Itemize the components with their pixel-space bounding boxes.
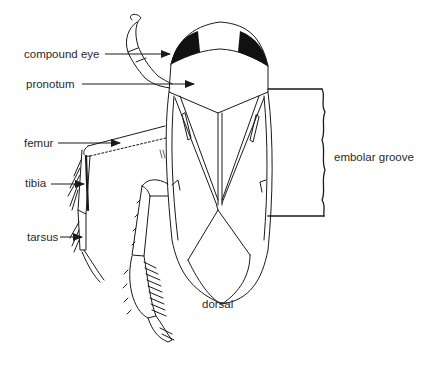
label-tibia: tibia	[25, 178, 46, 190]
label-compound-eye: compound eye	[24, 49, 99, 61]
antenna	[126, 22, 170, 88]
fore-leg	[68, 126, 166, 282]
middle-leg	[123, 180, 174, 342]
embolar-groove-bracket	[268, 89, 325, 216]
head	[171, 22, 268, 66]
insect-dorsal-diagram: compound eye pronotum femur tibia tarsus…	[0, 0, 437, 370]
compound-eye-left	[171, 31, 200, 64]
view-label-dorsal: dorsal	[202, 299, 233, 311]
body-outline	[166, 92, 272, 304]
label-pronotum: pronotum	[26, 79, 75, 91]
label-femur: femur	[24, 138, 53, 150]
label-tarsus: tarsus	[27, 232, 58, 244]
label-embolar-groove: embolar groove	[334, 152, 414, 164]
compound-eye-right	[238, 31, 268, 66]
